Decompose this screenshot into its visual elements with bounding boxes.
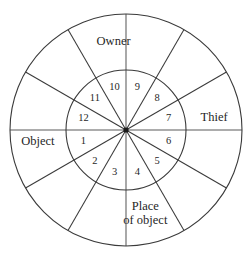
house-number-1: 1 bbox=[81, 135, 86, 146]
house-number-12: 12 bbox=[78, 112, 89, 123]
house-number-6: 6 bbox=[166, 135, 171, 146]
house-number-11: 11 bbox=[90, 92, 100, 103]
house-number-10: 10 bbox=[109, 81, 120, 92]
sector-divider-330deg bbox=[126, 130, 226, 188]
sector-label-thief: Thief bbox=[201, 109, 229, 123]
sector-divider-240deg bbox=[68, 130, 126, 230]
house-number-8: 8 bbox=[154, 92, 159, 103]
house-number-7: 7 bbox=[166, 112, 171, 123]
wheel-canvas: 123456789101112 OwnerThiefObjectPlaceof … bbox=[0, 0, 252, 258]
house-number-4: 4 bbox=[135, 166, 141, 177]
sector-label-owner: Owner bbox=[97, 34, 132, 48]
center-hub-dot bbox=[123, 127, 128, 132]
sector-divider-60deg bbox=[126, 30, 184, 130]
house-number-2: 2 bbox=[92, 155, 97, 166]
house-number-3: 3 bbox=[112, 166, 117, 177]
sector-label-place-of-object: Placeof object bbox=[123, 199, 168, 227]
radial-wheel-diagram: 123456789101112 OwnerThiefObjectPlaceof … bbox=[0, 0, 252, 258]
house-number-5: 5 bbox=[154, 155, 159, 166]
house-number-9: 9 bbox=[135, 81, 140, 92]
sector-label-object: Object bbox=[21, 134, 55, 148]
